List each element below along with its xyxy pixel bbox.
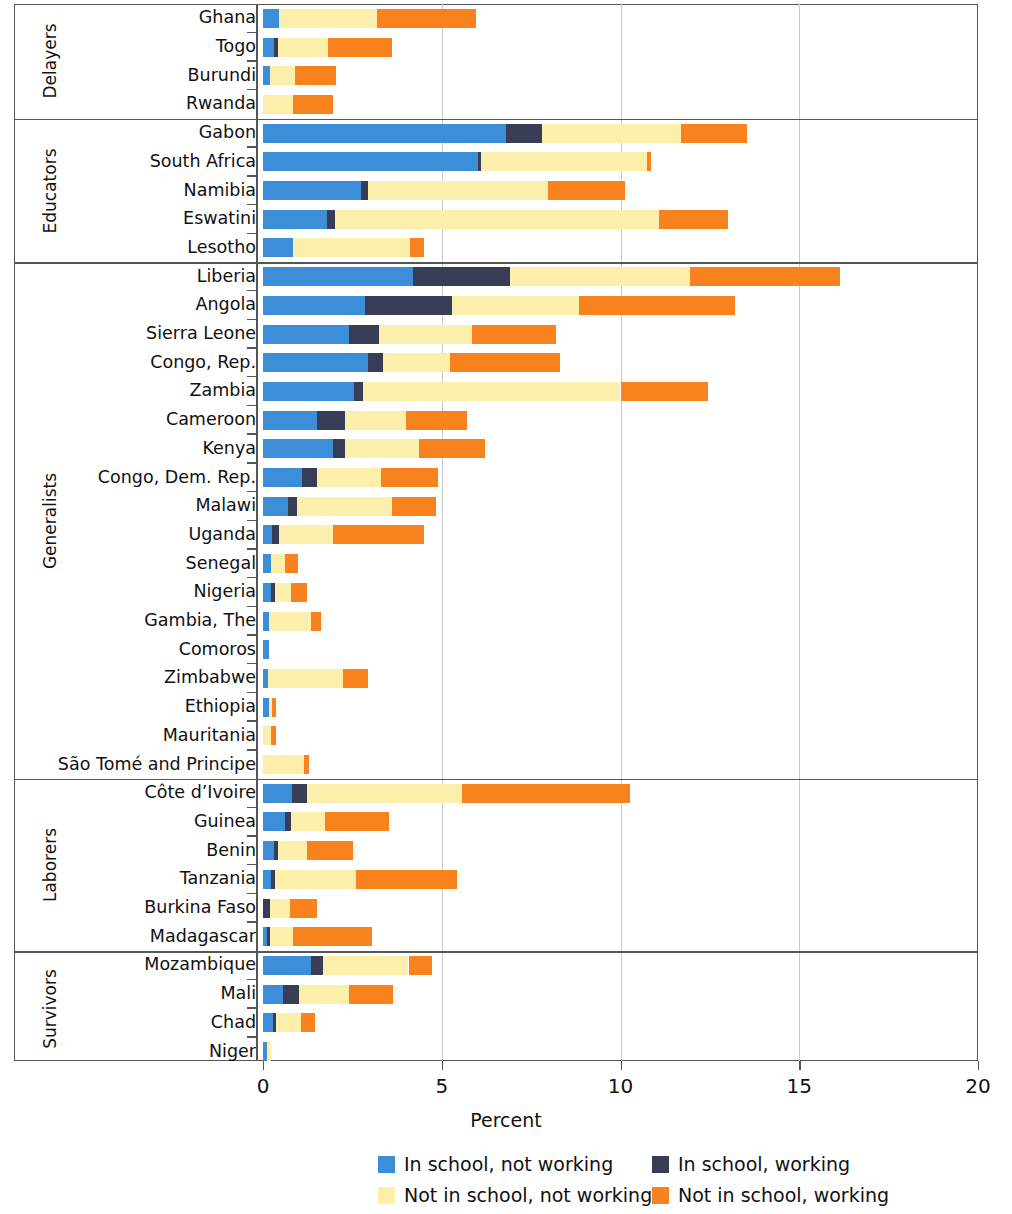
- bar-segment-not-in-school-not-working: [510, 267, 691, 286]
- x-axis-tick: [263, 1061, 264, 1070]
- bar-segment-not-in-school-not-working: [276, 1013, 301, 1032]
- chart-row: Chad: [0, 1009, 1012, 1038]
- bar-segment-not-in-school-not-working: [307, 784, 463, 803]
- legend-swatch-icon: [378, 1156, 395, 1173]
- group-label-laborers: Laborers: [40, 805, 60, 925]
- bar-segment-not-in-school-working: [681, 124, 747, 143]
- category-label: Tanzania: [180, 870, 256, 888]
- chart-row: Comoros: [0, 635, 1012, 664]
- bar-segment-not-in-school-not-working: [278, 841, 307, 860]
- chart-row: Kenya: [0, 435, 1012, 464]
- bar-segment-in-school-not-working: [263, 9, 279, 28]
- x-axis-tick: [442, 1061, 443, 1070]
- bar-segment-not-in-school-not-working: [271, 554, 285, 573]
- bar-segment-in-school-not-working: [263, 382, 354, 401]
- bar-segment-in-school-working: [368, 353, 383, 372]
- legend-label: Not in school, not working: [404, 1184, 652, 1206]
- chart-row: Tanzania: [0, 865, 1012, 894]
- bar-segment-not-in-school-working: [301, 1013, 315, 1032]
- category-label: Nigeria: [193, 583, 256, 601]
- bar-segment-not-in-school-not-working: [270, 899, 290, 918]
- category-label: Burkina Faso: [144, 899, 256, 917]
- bar-segment-not-in-school-working: [406, 411, 467, 430]
- bar-segment-in-school-not-working: [263, 870, 271, 889]
- x-axis-tick-label: 5: [412, 1074, 472, 1098]
- bar-segment-in-school-working: [365, 296, 453, 315]
- chart-legend: In school, not workingIn school, working…: [0, 1153, 1012, 1214]
- legend-swatch-icon: [652, 1187, 669, 1204]
- bar-segment-in-school-working: [292, 784, 306, 803]
- chart-row: Uganda: [0, 521, 1012, 550]
- category-label: Benin: [206, 842, 256, 860]
- chart-row: Congo, Rep.: [0, 348, 1012, 377]
- category-label: Namibia: [184, 182, 256, 200]
- category-label: Niger: [209, 1043, 256, 1061]
- bar-segment-in-school-not-working: [263, 38, 274, 57]
- legend-item: Not in school, working: [652, 1184, 889, 1206]
- x-axis-tick-label: 20: [948, 1074, 1008, 1098]
- chart-row: Lesotho: [0, 234, 1012, 263]
- chart-row: Nigeria: [0, 578, 1012, 607]
- x-axis-tick-label: 10: [591, 1074, 651, 1098]
- category-label: Rwanda: [186, 95, 256, 113]
- chart-row: Benin: [0, 836, 1012, 865]
- bar-segment-in-school-not-working: [263, 439, 333, 458]
- chart-row: Namibia: [0, 176, 1012, 205]
- bar-segment-not-in-school-working: [285, 554, 298, 573]
- bar-segment-in-school-not-working: [263, 640, 269, 659]
- category-label: Gambia, The: [144, 612, 256, 630]
- bar-segment-not-in-school-working: [311, 612, 321, 631]
- legend-swatch-icon: [378, 1187, 395, 1204]
- category-label: Ethiopia: [185, 698, 256, 716]
- category-label: Togo: [216, 38, 256, 56]
- bar-segment-in-school-not-working: [263, 411, 317, 430]
- bar-segment-not-in-school-working: [293, 927, 372, 946]
- bar-segment-in-school-not-working: [263, 841, 274, 860]
- bar-segment-in-school-not-working: [263, 353, 368, 372]
- group-label-educators: Educators: [40, 131, 60, 251]
- bar-segment-in-school-not-working: [263, 956, 311, 975]
- bar-segment-not-in-school-not-working: [345, 411, 406, 430]
- bar-segment-in-school-not-working: [263, 296, 365, 315]
- chart-row: South Africa: [0, 148, 1012, 177]
- category-label: Burundi: [188, 67, 256, 85]
- bar-segment-in-school-working: [311, 956, 322, 975]
- bar-segment-not-in-school-working: [291, 583, 307, 602]
- bar-segment-not-in-school-working: [410, 238, 424, 257]
- category-label: Madagascar: [150, 928, 256, 946]
- bar-segment-in-school-working: [333, 439, 346, 458]
- bar-segment-in-school-not-working: [263, 181, 361, 200]
- stacked-bar-chart: GhanaTogoBurundiRwandaGabonSouth AfricaN…: [0, 0, 1012, 1214]
- bar-segment-not-in-school-not-working: [293, 238, 409, 257]
- bar-segment-not-in-school-not-working: [270, 927, 293, 946]
- category-label: São Tomé and Principe: [58, 756, 256, 774]
- bar-segment-not-in-school-not-working: [345, 439, 418, 458]
- bar-segment-not-in-school-working: [349, 985, 394, 1004]
- bar-segment-not-in-school-working: [377, 9, 475, 28]
- bar-segment-in-school-not-working: [263, 525, 272, 544]
- bar-segment-not-in-school-not-working: [268, 669, 343, 688]
- chart-row: Mauritania: [0, 722, 1012, 751]
- bar-segment-not-in-school-not-working: [323, 956, 409, 975]
- bar-segment-not-in-school-working: [307, 841, 353, 860]
- chart-row: Liberia: [0, 262, 1012, 291]
- bar-segment-not-in-school-working: [293, 95, 332, 114]
- plot-area: GhanaTogoBurundiRwandaGabonSouth AfricaN…: [0, 0, 1012, 1214]
- bar-segment-in-school-working: [272, 525, 279, 544]
- chart-row: Zambia: [0, 377, 1012, 406]
- x-axis-tick: [799, 1061, 800, 1070]
- bar-segment-in-school-not-working: [263, 210, 327, 229]
- bar-segment-in-school-not-working: [263, 66, 270, 85]
- legend-item: Not in school, not working: [378, 1184, 652, 1206]
- category-label: Uganda: [188, 526, 256, 544]
- chart-row: Togo: [0, 33, 1012, 62]
- chart-row: Mali: [0, 980, 1012, 1009]
- chart-row: Sierra Leone: [0, 320, 1012, 349]
- bar-segment-in-school-working: [317, 411, 346, 430]
- category-label: Mozambique: [144, 956, 256, 974]
- bar-segment-in-school-not-working: [263, 784, 292, 803]
- label-column-separator: [256, 4, 258, 1061]
- category-label: Guinea: [194, 813, 256, 831]
- legend-label: In school, working: [678, 1153, 850, 1175]
- bar-segment-not-in-school-not-working: [379, 325, 472, 344]
